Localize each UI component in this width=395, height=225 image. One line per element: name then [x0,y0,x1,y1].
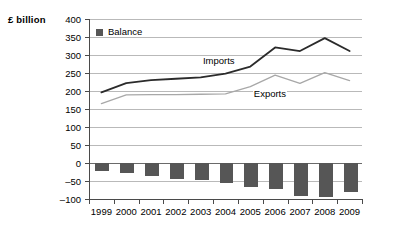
chart-container: £ billion Balance 4003503002502001501005… [0,0,395,225]
series-label-imports: Imports [202,56,236,66]
line-series-layer [0,0,395,225]
line-exports [101,73,349,104]
series-label-exports: Exports [253,89,287,99]
